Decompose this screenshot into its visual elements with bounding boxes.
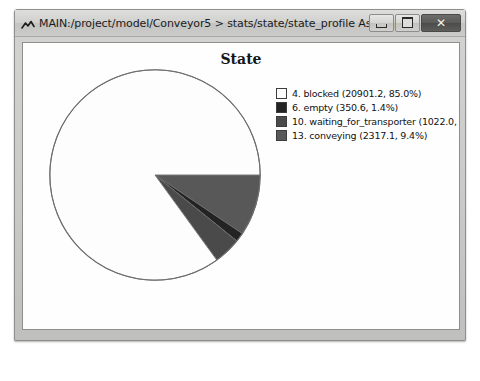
- pie-chart: [46, 66, 264, 284]
- graph-window: MAIN:/project/model/Conveyor5 > stats/st…: [14, 9, 466, 341]
- legend-label: 13. conveying (2317.1, 9.4%): [292, 130, 427, 141]
- pie-slices: [50, 70, 260, 280]
- maximize-button[interactable]: [395, 14, 420, 32]
- minimize-icon: [376, 24, 387, 28]
- minimize-button[interactable]: [369, 14, 394, 32]
- legend-item[interactable]: 10. waiting_for_transporter (1022.0, 4.2: [276, 115, 460, 128]
- legend-item[interactable]: 4. blocked (20901.2, 85.0%): [276, 87, 460, 100]
- chart-title: State: [23, 51, 459, 67]
- chart-canvas: State 4. blocked (20901.2, 85.0%)6. empt…: [22, 42, 460, 330]
- window-controls: ✕: [368, 13, 461, 32]
- maximize-icon: [402, 17, 413, 28]
- legend-label: 10. waiting_for_transporter (1022.0, 4.2: [292, 116, 460, 127]
- legend-label: 4. blocked (20901.2, 85.0%): [292, 88, 421, 99]
- close-icon: ✕: [436, 17, 446, 29]
- window-titlebar[interactable]: MAIN:/project/model/Conveyor5 > stats/st…: [15, 10, 465, 37]
- close-button[interactable]: ✕: [421, 14, 461, 32]
- chart-app-icon: [21, 18, 35, 31]
- chart-legend: 4. blocked (20901.2, 85.0%)6. empty (350…: [276, 87, 460, 143]
- legend-swatch: [276, 116, 287, 127]
- legend-swatch: [276, 88, 287, 99]
- legend-swatch: [276, 102, 287, 113]
- legend-item[interactable]: 13. conveying (2317.1, 9.4%): [276, 129, 460, 142]
- legend-item[interactable]: 6. empty (350.6, 1.4%): [276, 101, 460, 114]
- pie-svg: [46, 66, 264, 284]
- legend-swatch: [276, 130, 287, 141]
- legend-label: 6. empty (350.6, 1.4%): [292, 102, 398, 113]
- figure-caption: [60, 372, 420, 381]
- window-title: MAIN:/project/model/Conveyor5 > stats/st…: [39, 17, 408, 30]
